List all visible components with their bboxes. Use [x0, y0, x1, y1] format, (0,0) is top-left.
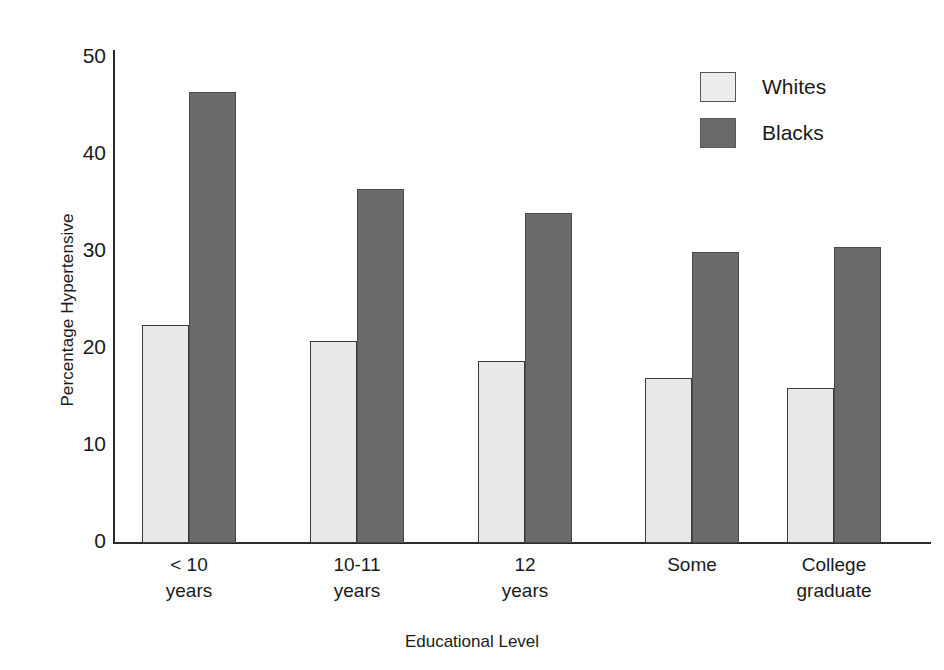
x-category-label-line: < 10 [99, 552, 279, 578]
bar-chart: Percentage Hypertensive 01020304050 < 10… [0, 0, 944, 670]
x-category-label-line: years [99, 578, 279, 604]
x-category-label-5: Collegegraduate [744, 552, 924, 603]
x-category-label-line: College [744, 552, 924, 578]
legend-label: Whites [762, 75, 826, 99]
x-category-label-line: 10-11 [267, 552, 447, 578]
x-category-label-3: 12years [435, 552, 615, 603]
legend-swatch-whites [700, 72, 736, 102]
bar-blacks-group-4 [692, 252, 739, 543]
bar-blacks-group-3 [525, 213, 572, 543]
y-axis-title: Percentage Hypertensive [58, 150, 78, 470]
x-category-label-line: years [267, 578, 447, 604]
bar-blacks-group-2 [357, 189, 404, 543]
y-tick-label: 10 [46, 433, 106, 454]
legend: WhitesBlacks [700, 64, 826, 156]
bar-blacks-group-5 [834, 247, 881, 543]
bar-whites-group-2 [310, 341, 357, 543]
x-category-label-1: < 10years [99, 552, 279, 603]
x-category-label-2: 10-11years [267, 552, 447, 603]
x-category-label-line: 12 [435, 552, 615, 578]
x-category-label-line: years [435, 578, 615, 604]
x-category-label-line: graduate [744, 578, 924, 604]
legend-label: Blacks [762, 121, 824, 145]
legend-item-blacks[interactable]: Blacks [700, 110, 826, 156]
y-tick-label: 50 [46, 45, 106, 66]
bar-whites-group-1 [142, 325, 189, 543]
legend-swatch-blacks [700, 118, 736, 148]
bar-whites-group-3 [478, 361, 525, 543]
x-axis-title: Educational Level [0, 632, 944, 652]
y-tick-label: 30 [46, 239, 106, 260]
y-tick-label: 20 [46, 336, 106, 357]
legend-item-whites[interactable]: Whites [700, 64, 826, 110]
y-tick-label: 40 [46, 142, 106, 163]
bar-whites-group-4 [645, 378, 692, 543]
bar-whites-group-5 [787, 388, 834, 543]
y-tick-label: 0 [46, 530, 106, 551]
bar-blacks-group-1 [189, 92, 236, 543]
